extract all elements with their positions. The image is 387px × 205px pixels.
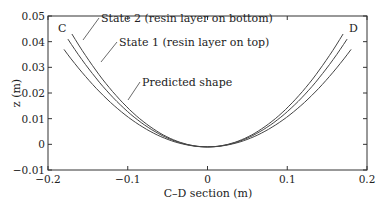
x-tick-label: 0 (204, 173, 211, 185)
curves (64, 34, 351, 147)
x-axis-title: C–D section (m) (164, 187, 253, 200)
y-tick-label: 0 (38, 138, 45, 150)
corner-label-c: C (58, 22, 66, 35)
y-tick-label: −0.01 (13, 164, 45, 176)
y-axis-title: z (m) (10, 79, 23, 107)
y-tick-label: 0.04 (22, 36, 46, 48)
series-annotation: State 1 (resin layer on top) (119, 36, 269, 49)
annotations: State 2 (resin layer on bottom)State 1 (… (83, 12, 273, 100)
x-tick-label: 0.2 (359, 173, 376, 185)
series-annotation: State 2 (resin layer on bottom) (101, 12, 273, 25)
x-tick-label: −0.1 (115, 173, 141, 185)
corner-label-d: D (349, 22, 358, 35)
series-line (68, 39, 347, 147)
x-tick-label: 0.1 (279, 173, 296, 185)
series-line (72, 34, 343, 147)
y-tick-label: 0.01 (22, 113, 45, 125)
series-annotation: Predicted shape (142, 76, 232, 89)
chart: −0.2−0.100.10.20.050.040.030.020.010−0.0… (0, 0, 387, 205)
y-tick-label: 0.02 (22, 87, 45, 99)
y-tick-label: 0.05 (22, 10, 45, 22)
series-line (64, 49, 351, 146)
y-tick-label: 0.03 (22, 61, 45, 73)
